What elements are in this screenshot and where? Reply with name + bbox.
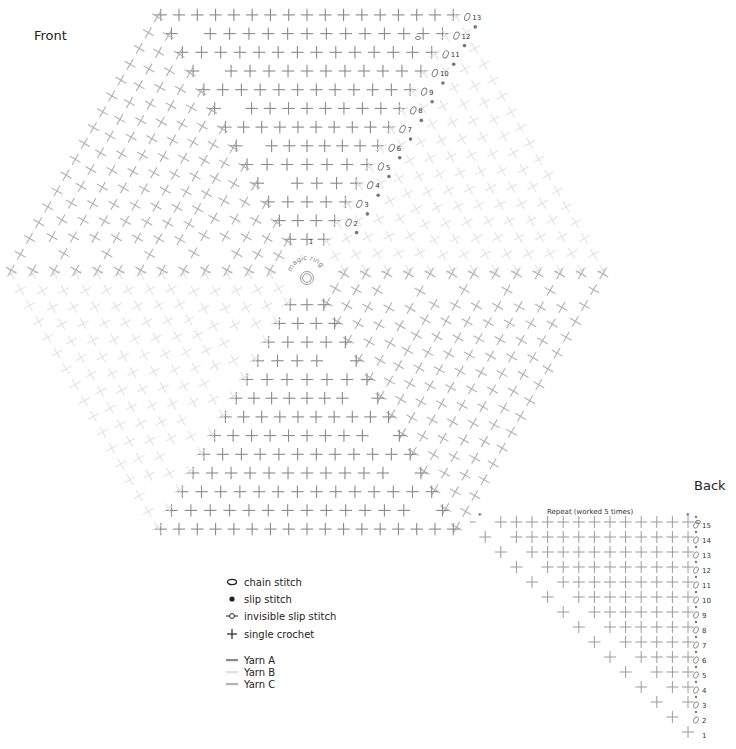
row-number: 10 xyxy=(440,70,449,78)
slip-stitch-icon xyxy=(695,636,697,638)
legend-yarn-c: Yarn C xyxy=(226,678,275,690)
row-number: 9 xyxy=(429,89,433,97)
invisible-slip-stitch-icon xyxy=(415,36,420,39)
slip-stitch-icon xyxy=(695,651,697,653)
yarn-b-swatch-icon xyxy=(226,666,238,678)
row-number: 12 xyxy=(702,567,711,575)
legend-slip-stitch: slip stitch xyxy=(226,593,292,605)
back-title: Back xyxy=(694,478,726,493)
chain-stitch-icon xyxy=(226,576,238,588)
slip-stitch-icon xyxy=(441,81,445,85)
row-number: 13 xyxy=(702,552,711,560)
chain-stitch-icon xyxy=(453,31,461,40)
slip-stitch-icon xyxy=(695,621,697,623)
row-number: 5 xyxy=(702,672,706,680)
slip-stitch-icon xyxy=(452,63,456,67)
row-number: 14 xyxy=(702,537,711,545)
chain-stitch-icon xyxy=(442,50,450,59)
slip-stitch-icon xyxy=(695,591,697,593)
row-number: 15 xyxy=(702,522,711,530)
legend-label: Yarn A xyxy=(244,655,275,666)
slip-stitch-icon xyxy=(376,193,380,197)
slip-stitch-icon xyxy=(355,231,359,235)
chain-stitch-icon xyxy=(410,106,418,115)
yarn-a-swatch-icon xyxy=(226,654,238,666)
row-number: 5 xyxy=(386,164,390,172)
row-number: 2 xyxy=(354,220,358,228)
repeat-start-marker: * xyxy=(478,512,482,520)
slip-stitch-icon xyxy=(409,137,413,141)
chain-stitch-icon xyxy=(366,181,374,190)
chain-stitch-icon xyxy=(420,87,428,96)
invisible-slip-stitch-icon xyxy=(226,610,238,622)
row-number: 7 xyxy=(702,642,706,650)
back-chart: 151413121110987654321** xyxy=(470,500,736,749)
row-number: 13 xyxy=(472,14,481,22)
chain-stitch-icon xyxy=(431,69,439,78)
row-number: 4 xyxy=(702,687,707,695)
slip-stitch-icon xyxy=(695,531,697,533)
row-number: 1 xyxy=(309,238,313,246)
legend-label: invisible slip stitch xyxy=(244,611,336,622)
row-number: 8 xyxy=(418,107,422,115)
row-number: 12 xyxy=(461,33,470,41)
slip-stitch-icon xyxy=(463,44,467,48)
slip-stitch-icon xyxy=(695,606,697,608)
single-crochet-icon xyxy=(226,628,238,640)
slip-stitch-icon xyxy=(695,711,697,713)
slip-stitch-icon xyxy=(226,593,238,605)
legend-yarn-b: Yarn B xyxy=(226,666,275,678)
slip-stitch-icon xyxy=(387,175,391,179)
slip-stitch-icon xyxy=(695,546,697,548)
chain-stitch-icon xyxy=(693,716,700,724)
slip-stitch-icon xyxy=(695,516,697,518)
row-number: 11 xyxy=(702,582,711,590)
chain-stitch-icon xyxy=(345,218,353,227)
slip-stitch-icon xyxy=(695,681,697,683)
legend-label: chain stitch xyxy=(244,577,302,588)
slip-stitch-icon xyxy=(420,119,424,123)
row-number: 2 xyxy=(702,717,706,725)
legend-label: Yarn C xyxy=(244,679,275,690)
row-number: 6 xyxy=(397,145,402,153)
chain-stitch-icon xyxy=(399,125,407,134)
chain-stitch-icon xyxy=(377,162,385,171)
chain-stitch-icon xyxy=(356,199,364,208)
legend-chain-stitch: chain stitch xyxy=(226,576,302,588)
row-number: 10 xyxy=(702,597,711,605)
legend-single-crochet: single crochet xyxy=(226,628,314,640)
slip-stitch-icon xyxy=(695,666,697,668)
slip-stitch-icon xyxy=(695,561,697,563)
row-number: 4 xyxy=(375,182,380,190)
row-number: 11 xyxy=(451,51,460,59)
slip-stitch-icon xyxy=(398,156,402,160)
magic-ring-label: magic ring xyxy=(286,254,326,273)
row-number: 3 xyxy=(702,702,706,710)
row-number: 9 xyxy=(702,612,706,620)
repeat-end-marker: * xyxy=(686,512,690,520)
row-number: 6 xyxy=(702,657,707,665)
row-number: 8 xyxy=(702,627,706,635)
slip-stitch-icon xyxy=(473,25,477,29)
slip-stitch-icon xyxy=(695,696,697,698)
legend-invisible-slip-stitch: invisible slip stitch xyxy=(226,610,336,622)
legend-label: single crochet xyxy=(244,629,314,640)
legend-label: Yarn B xyxy=(244,667,275,678)
row-number: 3 xyxy=(364,201,368,209)
row-number: 1 xyxy=(702,732,706,740)
legend-label: slip stitch xyxy=(244,594,292,605)
front-chart: magic ring12345678910111213 xyxy=(0,0,620,540)
chain-stitch-icon xyxy=(463,12,471,21)
slip-stitch-icon xyxy=(430,100,434,104)
yarn-c-swatch-icon xyxy=(226,678,238,690)
slip-stitch-icon xyxy=(366,212,370,216)
chain-stitch-icon xyxy=(388,143,396,152)
slip-stitch-icon xyxy=(695,576,697,578)
row-number: 7 xyxy=(408,126,412,134)
legend-yarn-a: Yarn A xyxy=(226,654,275,666)
